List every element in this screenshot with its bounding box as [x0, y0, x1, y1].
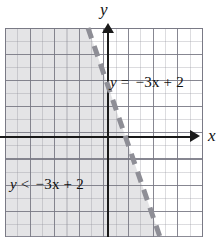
- x-axis: [0, 136, 194, 138]
- y-axis-arrow-icon: [102, 23, 114, 33]
- equation-variable: y: [110, 74, 117, 90]
- equation-label: y=−3x + 2: [110, 74, 184, 91]
- inequality-label: y<−3x + 2: [10, 176, 84, 193]
- equation-equals: =: [121, 74, 130, 90]
- x-axis-label: x: [208, 126, 216, 146]
- y-axis: [107, 32, 109, 237]
- plot-border: [5, 28, 203, 237]
- y-axis-label: y: [100, 0, 108, 20]
- equation-rhs: −3x + 2: [136, 74, 184, 90]
- inequality-rhs: −3x + 2: [36, 176, 84, 192]
- inequality-graph-figure: y x y=−3x + 2 y<−3x + 2: [0, 0, 222, 245]
- inequality-variable: y: [10, 176, 17, 192]
- plot-area: [5, 28, 203, 237]
- x-axis-arrow-icon: [190, 130, 200, 142]
- inequality-relation: <: [21, 176, 30, 192]
